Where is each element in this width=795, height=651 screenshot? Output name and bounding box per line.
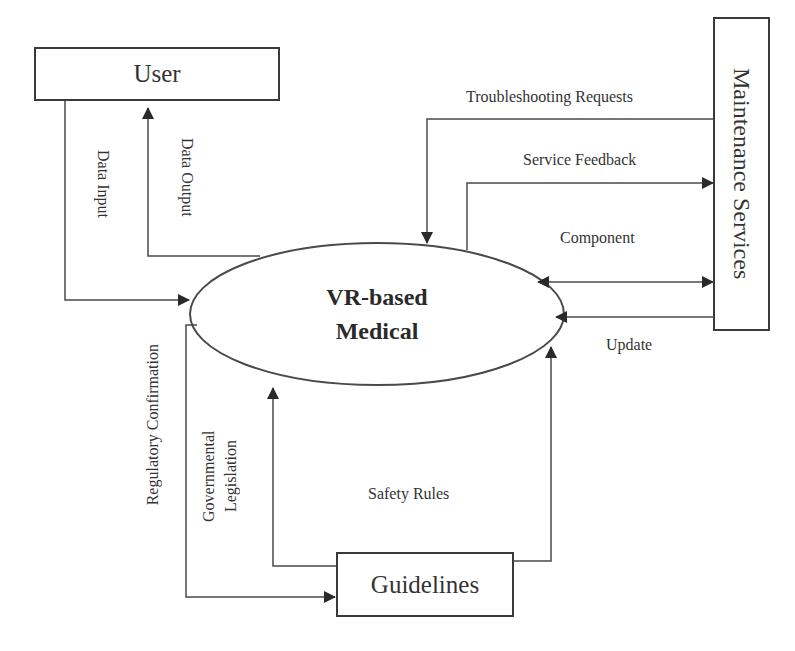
entity-user-label: User: [133, 60, 180, 88]
label-data-output: Data Output: [178, 138, 196, 217]
label-safety-rules: Safety Rules: [368, 485, 449, 503]
flow-data-input: [65, 100, 189, 300]
entity-guidelines-label: Guidelines: [371, 571, 479, 599]
entity-user[interactable]: User: [34, 47, 280, 101]
entity-maintenance-label: Maintenance Services: [728, 68, 755, 279]
central-process-line1: VR-based: [326, 280, 427, 314]
label-governmental: Governmental Legislation: [200, 415, 240, 538]
label-governmental-line2: Legislation: [222, 415, 240, 538]
label-governmental-line1: Governmental: [200, 415, 218, 538]
label-service-feedback: Service Feedback: [523, 151, 636, 169]
label-troubleshooting: Troubleshooting Requests: [466, 88, 633, 106]
entity-guidelines[interactable]: Guidelines: [336, 552, 514, 617]
central-process-line2: Medical: [336, 314, 419, 348]
label-regulatory: Regulatory Confirmation: [144, 344, 162, 505]
flow-data-output: [148, 108, 260, 256]
label-update: Update: [606, 336, 652, 354]
label-component: Component: [560, 229, 635, 247]
flow-troubleshooting: [427, 119, 713, 243]
entity-maintenance-services[interactable]: Maintenance Services: [713, 17, 770, 331]
label-data-input: Data Input: [94, 150, 112, 218]
central-process: VR-based Medical: [190, 243, 564, 385]
flow-governmental: [273, 388, 336, 566]
